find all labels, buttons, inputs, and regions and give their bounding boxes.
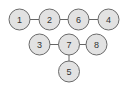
node-label: 4 (106, 15, 111, 25)
node-1: 1 (9, 9, 30, 30)
node-8: 8 (86, 34, 107, 55)
node-7: 7 (59, 34, 80, 55)
node-label: 2 (47, 15, 52, 25)
node-label: 7 (66, 40, 71, 50)
node-label: 3 (37, 40, 42, 50)
node-label: 1 (17, 15, 22, 25)
node-4: 4 (98, 9, 119, 30)
node-3: 3 (29, 34, 50, 55)
node-label: 8 (94, 40, 99, 50)
node-6: 6 (68, 9, 89, 30)
node-label: 6 (76, 15, 81, 25)
node-label: 5 (66, 67, 71, 77)
graph-diagram: 12643785 (0, 0, 124, 88)
node-5: 5 (59, 61, 80, 82)
graph-svg: 12643785 (0, 0, 124, 88)
node-2: 2 (39, 9, 60, 30)
